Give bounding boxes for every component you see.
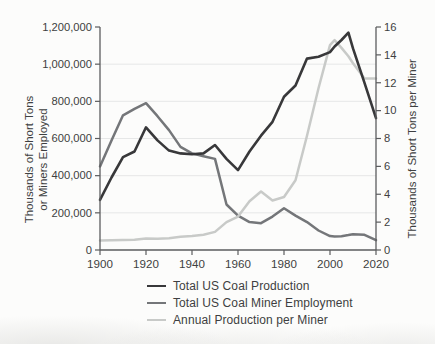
left-tick-label: 0: [86, 244, 92, 256]
right-tick-label: 6: [384, 160, 390, 172]
right-tick-label: 12: [384, 77, 396, 89]
production-line-swatch: [147, 285, 166, 287]
legend-item-per-miner: Annual Production per Miner: [147, 311, 353, 328]
coal-production-chart-figure: 0200,000400,000600,000800,0001,000,0001,…: [0, 0, 435, 344]
left-tick-label: 200,000: [52, 207, 92, 219]
right-tick-label: 14: [384, 49, 396, 61]
per-miner-line-swatch: [147, 319, 166, 321]
legend-label-per-miner: Annual Production per Miner: [173, 313, 328, 327]
x-tick-label: 1920: [133, 257, 159, 270]
employment-line: [100, 103, 376, 240]
x-tick-label: 1900: [87, 257, 113, 270]
right-tick-label: 4: [384, 188, 390, 200]
x-tick-label: 1940: [179, 257, 205, 270]
legend: Total US Coal Production Total US Coal M…: [147, 277, 353, 328]
x-tick-label: 2020: [363, 257, 389, 270]
left-axis-title-line1: Thousands of Short Tons: [23, 70, 37, 250]
x-tick-label: 1980: [271, 257, 297, 270]
left-axis-title: Thousands of Short Tons or Miners Employ…: [23, 70, 50, 250]
x-tick-label: 1960: [225, 257, 251, 270]
chart-canvas: 0200,000400,000600,000800,0001,000,0001,…: [0, 0, 435, 272]
right-tick-label: 0: [384, 244, 390, 256]
legend-item-employment: Total US Coal Miner Employment: [147, 294, 353, 311]
right-tick-label: 2: [384, 216, 390, 228]
right-axis-title: Thousands of Short Tons per Miner: [406, 39, 420, 259]
legend-label-production: Total US Coal Production: [173, 279, 309, 293]
right-tick-label: 16: [384, 21, 396, 33]
left-tick-label: 600,000: [52, 132, 92, 144]
right-tick-label: 10: [384, 104, 396, 116]
x-tick-label: 2000: [317, 257, 343, 270]
left-tick-label: 400,000: [52, 169, 92, 181]
left-axis-title-line2: or Miners Employed: [36, 70, 50, 250]
legend-item-production: Total US Coal Production: [147, 277, 353, 294]
left-tick-label: 800,000: [52, 95, 92, 107]
production-line: [100, 33, 376, 200]
right-tick-label: 8: [384, 132, 390, 144]
legend-label-employment: Total US Coal Miner Employment: [173, 296, 353, 310]
per-miner-line: [100, 40, 376, 240]
left-tick-label: 1,200,000: [42, 21, 92, 33]
employment-line-swatch: [147, 302, 166, 304]
left-tick-label: 1,000,000: [42, 58, 92, 70]
